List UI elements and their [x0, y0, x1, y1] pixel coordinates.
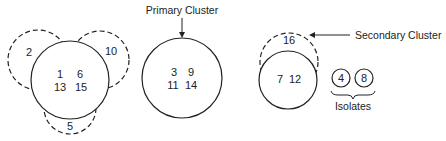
satellite-label-10: 10 [105, 45, 117, 57]
member-14: 14 [185, 79, 197, 91]
member-15: 15 [75, 81, 87, 93]
member-12: 12 [289, 73, 301, 85]
arrow-left-icon [309, 32, 315, 38]
cluster-diagram: 2 10 5 1 6 13 15 Primary Cluster 3 9 11 … [0, 0, 446, 141]
member-13: 13 [54, 81, 66, 93]
member-7: 7 [277, 73, 283, 85]
primary-cluster: Primary Cluster 3 9 11 14 [142, 4, 222, 118]
isolate-4: 4 [338, 72, 344, 84]
member-6: 6 [77, 68, 83, 80]
group-a: 2 10 5 1 6 13 15 [8, 30, 129, 134]
member-9: 9 [188, 66, 194, 78]
group-a-core-circle [31, 41, 109, 119]
secondary-cluster-label: Secondary Cluster [355, 29, 442, 41]
satellite-label-2: 2 [26, 46, 32, 58]
secondary-cluster: 16 7 12 Secondary Cluster [259, 29, 442, 109]
member-16: 16 [283, 34, 295, 46]
satellite-label-5: 5 [67, 120, 73, 132]
arrow-down-icon [179, 32, 185, 38]
isolate-8: 8 [361, 72, 367, 84]
isolates-label: Isolates [335, 100, 371, 112]
member-3: 3 [171, 66, 177, 78]
primary-cluster-circle [142, 38, 222, 118]
isolates: 4 8 Isolates [331, 69, 375, 112]
primary-cluster-label: Primary Cluster [146, 4, 219, 16]
member-11: 11 [167, 79, 178, 91]
member-1: 1 [57, 68, 63, 80]
brace-icon [331, 91, 375, 99]
